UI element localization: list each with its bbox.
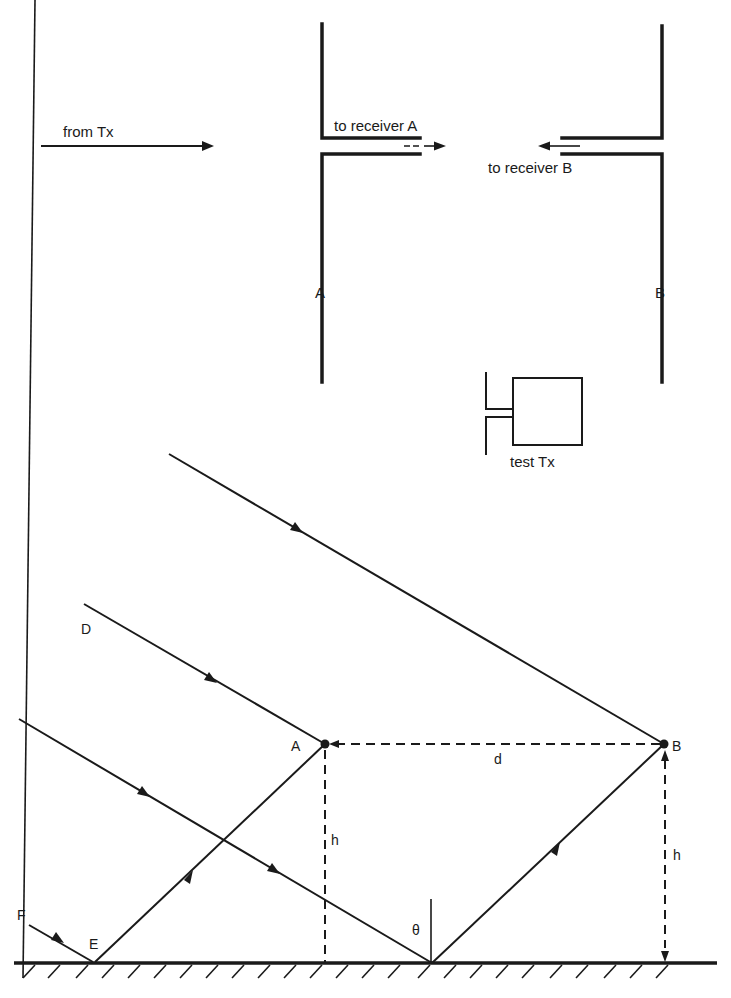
distance-d-label: d [494, 751, 502, 767]
arrow-icon [137, 786, 150, 797]
angle-theta-label: θ [412, 922, 420, 938]
height-b-label: h [673, 847, 681, 863]
reflected-ray-to-b [432, 744, 664, 963]
distance-d-dimension: d [329, 740, 660, 767]
arrow-left-icon [538, 142, 550, 151]
to-receiver-a-label: to receiver A [334, 117, 417, 134]
point-d-label: D [81, 621, 91, 637]
top-diagram: from Tx to receiver A A to receiver B B [41, 24, 665, 382]
antenna-b: to receiver B B [488, 26, 665, 382]
point-e-label: E [89, 936, 98, 952]
point-a-marker [321, 740, 330, 749]
arrow-icon [290, 522, 303, 533]
test-tx-label: test Tx [510, 453, 555, 470]
incident-ray-d-to-a: D [81, 604, 325, 744]
test-transmitter: test Tx [486, 372, 582, 470]
arrow-icon [204, 672, 217, 683]
antenna-a-label: A [315, 284, 325, 301]
ray-f-to-e: F E [17, 907, 98, 962]
height-a-dimension: h [325, 750, 339, 963]
height-b-dimension: h [661, 750, 681, 962]
to-receiver-b-label: to receiver B [488, 159, 572, 176]
from-tx-label: from Tx [63, 123, 114, 140]
arrow-up-icon [661, 750, 669, 761]
point-a-label: A [291, 738, 301, 754]
arrow-right-icon [202, 141, 214, 151]
arrow-down-icon [661, 951, 669, 962]
point-b-label: B [672, 738, 681, 754]
height-a-label: h [331, 832, 339, 848]
antenna-b-label: B [655, 284, 665, 301]
incident-ray-to-ground [19, 719, 432, 963]
arrow-left-icon [329, 740, 339, 748]
arrow-right-icon [434, 142, 446, 151]
point-b-marker [660, 740, 669, 749]
antenna-a: to receiver A A [315, 24, 446, 382]
from-tx-arrow: from Tx [41, 123, 214, 151]
arrow-icon [51, 932, 64, 943]
reflected-ray-e-to-a [95, 744, 325, 962]
arrow-icon [267, 863, 280, 874]
incident-ray-to-b [169, 454, 664, 744]
reflection-geometry-figure: from Tx to receiver A A to receiver B B … [0, 0, 731, 998]
